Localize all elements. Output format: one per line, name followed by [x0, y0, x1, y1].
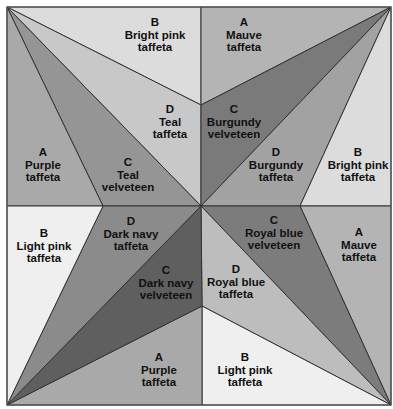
- piece-label-line1: Bright pink: [125, 29, 186, 42]
- piece-label-line2: taffeta: [25, 171, 61, 184]
- piece-label-line2: taffeta: [125, 41, 186, 54]
- piece-label-letter: C: [207, 103, 261, 116]
- piece-label-tr-d: DBurgundytaffeta: [249, 146, 303, 184]
- piece-label-line2: taffeta: [104, 240, 159, 253]
- piece-label-line1: Teal: [153, 116, 188, 129]
- piece-label-line2: taffeta: [249, 171, 303, 184]
- piece-label-tl-d: DTealtaffeta: [153, 103, 188, 141]
- piece-label-line2: taffeta: [207, 288, 265, 301]
- piece-label-line1: Mauve: [226, 29, 262, 42]
- piece-label-line1: Light pink: [218, 364, 273, 377]
- piece-label-line2: taffeta: [341, 251, 377, 264]
- piece-label-tr-a: AMauvetaffeta: [226, 16, 262, 54]
- piece-label-line1: Royal blue: [245, 227, 303, 240]
- piece-label-line2: velveteen: [207, 128, 261, 141]
- quilt-diagram: [0, 0, 393, 409]
- piece-label-line1: Royal blue: [207, 276, 265, 289]
- piece-label-line1: Light pink: [17, 240, 72, 253]
- piece-label-line2: taffeta: [17, 252, 72, 265]
- piece-label-tr-c: CBurgundyvelveteen: [207, 103, 261, 141]
- piece-label-letter: D: [249, 146, 303, 159]
- piece-label-line1: Dark navy: [139, 277, 194, 290]
- piece-label-line2: velveteen: [139, 289, 194, 302]
- piece-label-letter: A: [341, 226, 377, 239]
- piece-label-line1: Purple: [141, 364, 177, 377]
- piece-label-letter: A: [141, 351, 177, 364]
- piece-label-letter: D: [104, 215, 159, 228]
- piece-label-bl-c: CDark navyvelveteen: [139, 264, 194, 302]
- piece-label-line2: taffeta: [328, 171, 389, 184]
- piece-label-letter: C: [139, 264, 194, 277]
- piece-label-letter: C: [102, 156, 154, 169]
- piece-label-br-c: CRoyal bluevelveteen: [245, 214, 303, 252]
- piece-label-br-d: DRoyal bluetaffeta: [207, 263, 265, 301]
- piece-label-bl-d: DDark navytaffeta: [104, 215, 159, 253]
- piece-label-line1: Burgundy: [207, 116, 261, 129]
- piece-label-letter: B: [328, 146, 389, 159]
- piece-label-line1: Purple: [25, 159, 61, 172]
- piece-label-line2: velveteen: [102, 181, 154, 194]
- piece-label-line2: taffeta: [226, 41, 262, 54]
- piece-label-letter: A: [25, 146, 61, 159]
- piece-label-bl-b: BLight pinktaffeta: [17, 227, 72, 265]
- piece-label-br-b: BLight pinktaffeta: [218, 351, 273, 389]
- piece-label-letter: B: [125, 16, 186, 29]
- piece-label-letter: B: [218, 351, 273, 364]
- piece-label-tl-b: BBright pinktaffeta: [125, 16, 186, 54]
- piece-label-line1: Mauve: [341, 239, 377, 252]
- piece-label-letter: B: [17, 227, 72, 240]
- piece-label-line1: Teal: [102, 169, 154, 182]
- piece-label-letter: A: [226, 16, 262, 29]
- piece-label-line2: taffeta: [153, 128, 188, 141]
- piece-label-letter: D: [153, 103, 188, 116]
- piece-label-line1: Dark navy: [104, 228, 159, 241]
- piece-label-line2: taffeta: [141, 376, 177, 389]
- piece-label-bl-a: APurpletaffeta: [141, 351, 177, 389]
- piece-label-line2: velveteen: [245, 239, 303, 252]
- piece-label-tl-a: APurpletaffeta: [25, 146, 61, 184]
- piece-label-tr-b: BBright pinktaffeta: [328, 146, 389, 184]
- piece-label-tl-c: CTealvelveteen: [102, 156, 154, 194]
- piece-label-line1: Burgundy: [249, 159, 303, 172]
- piece-label-line1: Bright pink: [328, 159, 389, 172]
- piece-label-line2: taffeta: [218, 376, 273, 389]
- piece-label-letter: D: [207, 263, 265, 276]
- piece-label-letter: C: [245, 214, 303, 227]
- piece-label-br-a: AMauvetaffeta: [341, 226, 377, 264]
